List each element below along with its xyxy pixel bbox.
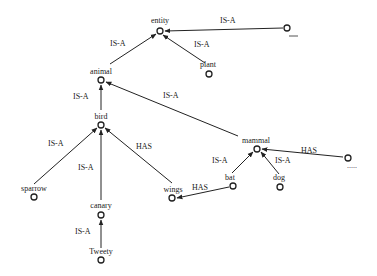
rel-label: IS-A bbox=[220, 16, 236, 25]
rel-label: IS-A bbox=[48, 139, 64, 148]
rel-label: IS-A bbox=[73, 92, 89, 101]
node-canary bbox=[98, 212, 104, 218]
edge-bat-mammal bbox=[232, 152, 253, 173]
rel-label: IS-A bbox=[194, 40, 210, 49]
node-label-animal: animal bbox=[90, 67, 113, 76]
rel-label: IS-A bbox=[163, 91, 179, 100]
node-entity bbox=[157, 28, 163, 34]
node-tweety bbox=[98, 257, 104, 263]
node-label-entity: entity bbox=[151, 16, 169, 25]
rel-label: IS-A bbox=[110, 39, 126, 48]
node-label-bird: bird bbox=[95, 112, 108, 121]
rel-label: IS-A bbox=[275, 156, 291, 165]
edges bbox=[34, 28, 343, 248]
semantic-network-diagram: IS-A IS-A IS-A IS-A IS-A IS-A IS-A HAS I… bbox=[0, 0, 377, 276]
node-wings bbox=[169, 195, 175, 201]
node-sparrow bbox=[31, 194, 37, 200]
placeholder-dots: ..... bbox=[347, 161, 357, 170]
node-animal bbox=[98, 77, 104, 83]
rel-label: HAS bbox=[136, 142, 152, 151]
node-label-sparrow: sparrow bbox=[21, 184, 47, 193]
node-label-plant: plant bbox=[200, 60, 217, 69]
node-dog bbox=[277, 184, 283, 190]
node-unnamed1 bbox=[284, 25, 290, 31]
node-bat bbox=[230, 183, 236, 189]
rel-label: IS-A bbox=[212, 156, 228, 165]
node-mammal bbox=[254, 146, 260, 152]
node-label-dog: dog bbox=[273, 173, 285, 182]
node-label-canary: canary bbox=[90, 201, 111, 210]
node-label-mammal: mammal bbox=[242, 136, 271, 145]
node-bird bbox=[98, 122, 104, 128]
node-label-wings: wings bbox=[163, 185, 182, 194]
rel-label: IS-A bbox=[75, 227, 91, 236]
node-label-tweety: Tweety bbox=[89, 247, 112, 256]
rel-label: IS-A bbox=[78, 163, 94, 172]
edge-unnamed1-entity bbox=[165, 28, 283, 31]
nodes: entity plant animal bird mammal ..... ba… bbox=[21, 16, 357, 263]
edge-wings-bird bbox=[105, 128, 172, 183]
rel-label: HAS bbox=[301, 146, 317, 155]
rel-label: HAS bbox=[192, 183, 208, 192]
edge-sparrow-bird bbox=[34, 128, 97, 184]
node-label-bat: bat bbox=[225, 173, 236, 182]
relation-labels: IS-A IS-A IS-A IS-A IS-A IS-A IS-A HAS I… bbox=[48, 16, 317, 236]
node-plant bbox=[206, 71, 212, 77]
